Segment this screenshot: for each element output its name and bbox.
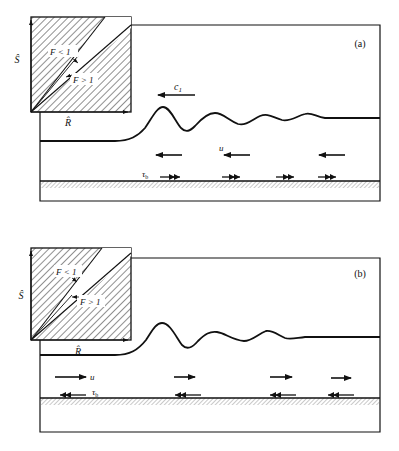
bed-hatch-a bbox=[40, 181, 380, 188]
region-upper-label-a: F < 1 bbox=[49, 47, 71, 57]
region-lower-label-a: F > 1 bbox=[72, 75, 94, 85]
regime-inset-a: Ŝ R̂ F < 1 F > 1 bbox=[15, 17, 132, 128]
bed-stress-label-a: τb bbox=[142, 169, 148, 180]
panel-b: (b) u τb Ŝ R̂ F < 1 F > 1 bbox=[19, 248, 381, 432]
bed-hatch-b bbox=[40, 398, 380, 405]
velocity-label-a: u bbox=[219, 143, 224, 153]
inset-y-axis-label-a: Ŝ bbox=[15, 54, 20, 65]
panel-a: (a) c1 u τb Ŝ R̂ F < bbox=[15, 17, 381, 201]
figure: (a) c1 u τb Ŝ R̂ F < bbox=[0, 0, 399, 451]
inset-x-axis-label-b: R̂ bbox=[74, 345, 81, 357]
inset-y-axis-label-b: Ŝ bbox=[19, 290, 24, 301]
region-lower-label-b: F > 1 bbox=[79, 297, 101, 307]
velocity-label-b: u bbox=[90, 372, 95, 382]
panel-label-b: (b) bbox=[354, 268, 366, 280]
panel-label-a: (a) bbox=[354, 38, 365, 50]
regime-inset-b: Ŝ R̂ F < 1 F > 1 bbox=[19, 248, 132, 357]
wave-speed-label-a: c1 bbox=[174, 81, 182, 94]
inset-x-axis-label-a: R̂ bbox=[64, 116, 71, 128]
bed-stress-label-b: τb bbox=[92, 387, 98, 398]
region-upper-label-b: F < 1 bbox=[55, 267, 77, 277]
